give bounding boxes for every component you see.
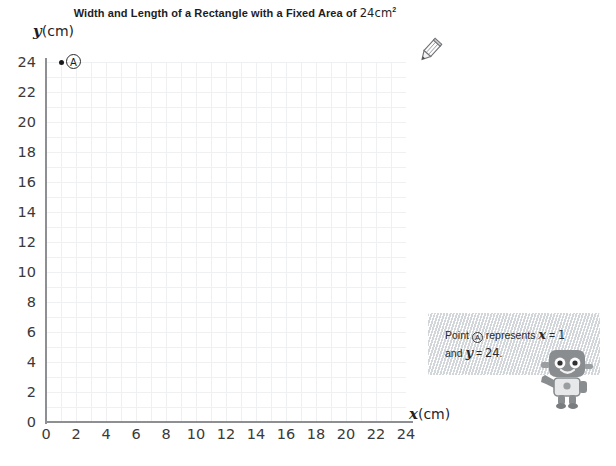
pencil-icon[interactable] — [414, 36, 444, 66]
coordinate-plane[interactable]: 24 22 20 18 16 14 12 10 8 6 4 2 0 0 2 4 … — [0, 0, 616, 466]
x-tick-20: 20 — [333, 426, 359, 442]
x-tick-24: 24 — [393, 426, 419, 442]
grid-background[interactable] — [46, 62, 406, 422]
x-tick-2: 2 — [63, 426, 89, 442]
robot-mascot-icon — [533, 343, 601, 411]
callout-line1-pre: Point — [445, 329, 472, 341]
y-tick-2: 2 — [8, 384, 36, 400]
x-tick-4: 4 — [93, 426, 119, 442]
x-tick-0: 0 — [33, 426, 59, 442]
y-tick-6: 6 — [8, 324, 36, 340]
callout-point-label: A — [472, 332, 483, 343]
y-tick-4: 4 — [8, 354, 36, 370]
y-axis-unit: (cm) — [42, 23, 74, 39]
x-tick-18: 18 — [303, 426, 329, 442]
x-tick-14: 14 — [243, 426, 269, 442]
point-a-label[interactable]: A — [66, 54, 81, 69]
y-axis-line — [45, 58, 47, 424]
callout-x-value: 1 — [558, 328, 565, 342]
x-tick-22: 22 — [363, 426, 389, 442]
y-axis-label: y(cm) — [33, 22, 74, 40]
y-tick-8: 8 — [8, 294, 36, 310]
x-axis-line — [45, 421, 413, 423]
callout-y-value: 24 — [485, 346, 500, 360]
callout-eq2: = — [473, 347, 485, 359]
y-tick-16: 16 — [8, 174, 36, 190]
pencil-icon-glyph — [414, 36, 444, 66]
y-tick-14: 14 — [8, 204, 36, 220]
callout-line1-mid: represents — [483, 329, 538, 341]
callout-var-y: y — [465, 345, 473, 360]
x-tick-10: 10 — [183, 426, 209, 442]
x-tick-12: 12 — [213, 426, 239, 442]
x-tick-16: 16 — [273, 426, 299, 442]
y-tick-0: 0 — [8, 414, 36, 430]
y-axis-variable: y — [33, 22, 42, 40]
plotted-point-a[interactable] — [59, 60, 64, 65]
y-tick-22: 22 — [8, 84, 36, 100]
callout-var-x: x — [538, 327, 546, 342]
x-axis-unit: (cm) — [418, 406, 450, 422]
y-tick-24: 24 — [8, 54, 36, 70]
x-tick-8: 8 — [153, 426, 179, 442]
x-axis-label: x(cm) — [409, 405, 450, 423]
robot-mascot-glyph — [533, 343, 601, 411]
y-tick-10: 10 — [8, 264, 36, 280]
y-tick-12: 12 — [8, 234, 36, 250]
callout-eq1: = — [546, 329, 558, 341]
callout-period: . — [500, 347, 503, 359]
x-tick-6: 6 — [123, 426, 149, 442]
x-axis-variable: x — [409, 405, 418, 423]
y-tick-20: 20 — [8, 114, 36, 130]
y-tick-18: 18 — [8, 144, 36, 160]
callout-line2-mid: and — [445, 347, 465, 359]
